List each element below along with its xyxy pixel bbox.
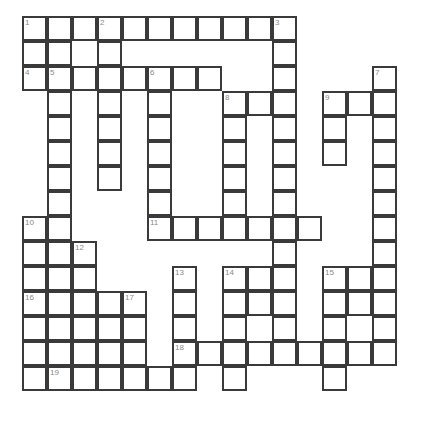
crossword-cell[interactable] (47, 91, 72, 116)
crossword-cell[interactable] (222, 366, 247, 391)
crossword-cell[interactable] (72, 266, 97, 291)
crossword-cell[interactable]: 1 (22, 16, 47, 41)
crossword-cell[interactable] (322, 116, 347, 141)
crossword-cell[interactable] (172, 316, 197, 341)
crossword-cell[interactable] (247, 341, 272, 366)
crossword-cell[interactable] (22, 366, 47, 391)
crossword-cell[interactable] (347, 91, 372, 116)
crossword-cell[interactable] (272, 116, 297, 141)
crossword-cell[interactable]: 18 (172, 341, 197, 366)
crossword-cell[interactable] (22, 266, 47, 291)
crossword-cell[interactable] (372, 341, 397, 366)
crossword-cell[interactable] (72, 316, 97, 341)
crossword-cell[interactable] (272, 266, 297, 291)
crossword-cell[interactable] (122, 341, 147, 366)
crossword-cell[interactable] (122, 366, 147, 391)
crossword-cell[interactable] (347, 266, 372, 291)
crossword-cell[interactable] (372, 91, 397, 116)
crossword-cell[interactable]: 10 (22, 216, 47, 241)
crossword-cell[interactable] (22, 341, 47, 366)
crossword-cell[interactable] (247, 266, 272, 291)
crossword-cell[interactable] (372, 216, 397, 241)
crossword-cell[interactable] (297, 341, 322, 366)
crossword-cell[interactable] (247, 91, 272, 116)
crossword-cell[interactable]: 2 (97, 16, 122, 41)
crossword-cell[interactable] (272, 341, 297, 366)
crossword-cell[interactable]: 8 (222, 91, 247, 116)
crossword-cell[interactable] (122, 16, 147, 41)
crossword-cell[interactable]: 6 (147, 66, 172, 91)
crossword-cell[interactable] (172, 291, 197, 316)
crossword-cell[interactable]: 14 (222, 266, 247, 291)
crossword-cell[interactable]: 3 (272, 16, 297, 41)
crossword-cell[interactable] (47, 341, 72, 366)
crossword-cell[interactable] (272, 316, 297, 341)
crossword-cell[interactable] (272, 216, 297, 241)
crossword-cell[interactable] (97, 41, 122, 66)
crossword-cell[interactable] (47, 216, 72, 241)
crossword-cell[interactable]: 5 (47, 66, 72, 91)
crossword-cell[interactable] (97, 291, 122, 316)
crossword-cell[interactable] (172, 366, 197, 391)
crossword-cell[interactable] (372, 116, 397, 141)
crossword-cell[interactable] (147, 191, 172, 216)
crossword-cell[interactable] (222, 166, 247, 191)
crossword-cell[interactable] (97, 66, 122, 91)
crossword-cell[interactable] (347, 341, 372, 366)
crossword-cell[interactable] (322, 366, 347, 391)
crossword-cell[interactable] (97, 316, 122, 341)
crossword-cell[interactable] (222, 316, 247, 341)
crossword-cell[interactable] (272, 291, 297, 316)
crossword-cell[interactable] (197, 216, 222, 241)
crossword-cell[interactable] (47, 141, 72, 166)
crossword-cell[interactable] (272, 241, 297, 266)
crossword-cell[interactable] (372, 316, 397, 341)
crossword-cell[interactable]: 19 (47, 366, 72, 391)
crossword-cell[interactable] (222, 141, 247, 166)
crossword-cell[interactable] (47, 41, 72, 66)
crossword-cell[interactable] (322, 141, 347, 166)
crossword-cell[interactable]: 7 (372, 66, 397, 91)
crossword-cell[interactable] (297, 216, 322, 241)
crossword-cell[interactable] (147, 116, 172, 141)
crossword-cell[interactable]: 13 (172, 266, 197, 291)
crossword-cell[interactable] (122, 316, 147, 341)
crossword-cell[interactable] (172, 66, 197, 91)
crossword-cell[interactable] (97, 116, 122, 141)
crossword-cell[interactable] (197, 341, 222, 366)
crossword-cell[interactable] (97, 341, 122, 366)
crossword-cell[interactable]: 17 (122, 291, 147, 316)
crossword-cell[interactable] (322, 341, 347, 366)
crossword-cell[interactable] (247, 16, 272, 41)
crossword-cell[interactable]: 12 (72, 241, 97, 266)
crossword-cell[interactable] (47, 241, 72, 266)
crossword-cell[interactable] (272, 41, 297, 66)
crossword-cell[interactable] (272, 91, 297, 116)
crossword-cell[interactable] (372, 291, 397, 316)
crossword-cell[interactable] (197, 16, 222, 41)
crossword-cell[interactable] (172, 216, 197, 241)
crossword-cell[interactable] (22, 241, 47, 266)
crossword-cell[interactable] (247, 216, 272, 241)
crossword-cell[interactable] (97, 91, 122, 116)
crossword-cell[interactable] (222, 191, 247, 216)
crossword-cell[interactable] (72, 366, 97, 391)
crossword-cell[interactable] (147, 91, 172, 116)
crossword-grid[interactable]: 12345678910111213141516171819 (0, 0, 425, 429)
crossword-cell[interactable] (47, 291, 72, 316)
crossword-cell[interactable] (72, 341, 97, 366)
crossword-cell[interactable] (47, 191, 72, 216)
crossword-cell[interactable] (272, 141, 297, 166)
crossword-cell[interactable] (372, 266, 397, 291)
crossword-cell[interactable] (372, 241, 397, 266)
crossword-cell[interactable]: 15 (322, 266, 347, 291)
crossword-cell[interactable] (222, 116, 247, 141)
crossword-cell[interactable] (272, 66, 297, 91)
crossword-cell[interactable] (147, 16, 172, 41)
crossword-cell[interactable] (47, 266, 72, 291)
crossword-cell[interactable] (47, 316, 72, 341)
crossword-cell[interactable] (322, 291, 347, 316)
crossword-cell[interactable] (47, 116, 72, 141)
crossword-cell[interactable] (222, 16, 247, 41)
crossword-cell[interactable] (147, 166, 172, 191)
